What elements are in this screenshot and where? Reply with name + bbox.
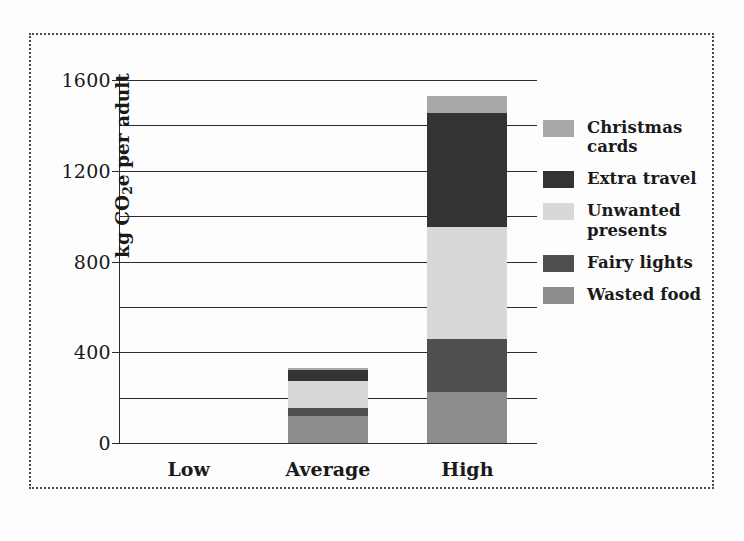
y-tickmark-400 xyxy=(112,352,119,353)
bar-segment-average-unwanted-presents[interactable] xyxy=(288,381,368,408)
legend-swatch-wasted-food xyxy=(543,287,574,304)
legend-label-wasted-food: Wasted food xyxy=(587,285,701,304)
y-tick-label-400: 400 xyxy=(74,341,111,363)
legend-item-christmas-cards[interactable]: Christmas cards xyxy=(543,118,708,156)
y-tickmark-0 xyxy=(112,443,119,444)
legend-item-fairy-lights[interactable]: Fairy lights xyxy=(543,253,708,272)
y-tick-label-1200: 1200 xyxy=(61,160,111,182)
bar-segment-high-extra-travel[interactable] xyxy=(427,113,507,227)
y-tick-labels: 040080012001600 xyxy=(0,0,111,541)
legend-swatch-fairy-lights xyxy=(543,255,574,272)
bar-segment-high-wasted-food[interactable] xyxy=(427,392,507,443)
legend-item-unwanted-presents[interactable]: Unwanted presents xyxy=(543,201,708,239)
chart-figure: 040080012001600 kg CO2e per adult LowAve… xyxy=(0,0,744,541)
legend-item-extra-travel[interactable]: Extra travel xyxy=(543,169,708,188)
y-axis-title-suffix: e per adult xyxy=(112,73,133,186)
x-axis-line xyxy=(119,443,537,444)
bar-segment-average-wasted-food[interactable] xyxy=(288,416,368,443)
y-axis-title: kg CO2e per adult xyxy=(112,36,133,296)
legend-swatch-unwanted-presents xyxy=(543,203,574,220)
x-tick-label-average: Average xyxy=(286,458,371,480)
bar-segment-average-fairy-lights[interactable] xyxy=(288,408,368,416)
legend-item-wasted-food[interactable]: Wasted food xyxy=(543,285,708,304)
legend-label-christmas-cards: Christmas cards xyxy=(587,118,708,156)
bar-segment-high-unwanted-presents[interactable] xyxy=(427,227,507,339)
bar-segment-average-extra-travel[interactable] xyxy=(288,370,368,380)
x-tick-label-low: Low xyxy=(167,458,209,480)
y-tick-label-800: 800 xyxy=(74,251,111,273)
y-tick-label-0: 0 xyxy=(99,432,111,454)
legend-label-unwanted-presents: Unwanted presents xyxy=(587,201,708,239)
chart-legend: Christmas cardsExtra travelUnwanted pres… xyxy=(543,118,708,317)
bar-high[interactable] xyxy=(427,80,507,443)
y-axis-title-subscript: 2 xyxy=(120,186,135,195)
legend-swatch-extra-travel xyxy=(543,171,574,188)
bar-segment-high-fairy-lights[interactable] xyxy=(427,339,507,392)
legend-label-extra-travel: Extra travel xyxy=(587,169,697,188)
x-tick-label-high: High xyxy=(441,458,493,480)
bar-low[interactable] xyxy=(149,80,229,443)
bar-segment-high-christmas-cards[interactable] xyxy=(427,96,507,113)
legend-label-fairy-lights: Fairy lights xyxy=(587,253,693,272)
y-tick-label-1600: 1600 xyxy=(61,69,111,91)
legend-swatch-christmas-cards xyxy=(543,120,574,137)
bar-average[interactable] xyxy=(288,80,368,443)
bar-segment-average-christmas-cards[interactable] xyxy=(288,368,368,370)
y-axis-title-prefix: kg CO xyxy=(112,195,133,258)
